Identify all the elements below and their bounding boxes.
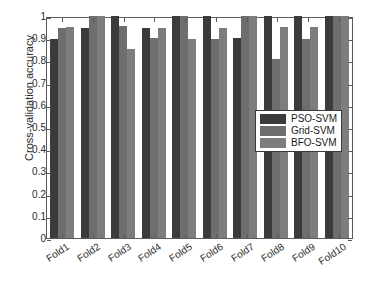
y-tick-mark: [348, 40, 352, 41]
bar-grid-svm-fold3: [119, 26, 127, 238]
y-tick-mark: [47, 18, 51, 19]
x-tick-mark: [277, 234, 278, 238]
legend-swatch-icon: [260, 138, 286, 148]
legend-entry-pso-svm[interactable]: PSO-SVM: [260, 114, 337, 124]
bar-pso-svm-fold2: [81, 28, 89, 238]
y-tick-label: 0.8: [6, 56, 46, 66]
y-tick-mark: [47, 173, 51, 174]
x-tick-mark: [124, 18, 125, 22]
legend-label: BFO-SVM: [291, 138, 337, 148]
bar-group: [78, 18, 109, 238]
bar-bfo-svm-fold4: [158, 28, 166, 238]
legend-entry-bfo-svm[interactable]: BFO-SVM: [260, 138, 337, 148]
x-tick-mark: [93, 18, 94, 22]
x-tick-mark: [93, 234, 94, 238]
y-tick-label: 0: [6, 234, 46, 244]
bar-pso-svm-fold6: [203, 16, 211, 238]
x-tick-mark: [216, 234, 217, 238]
bar-group: [139, 18, 170, 238]
x-tick-mark: [185, 234, 186, 238]
y-tick-label: 1: [6, 12, 46, 22]
bar-bfo-svm-fold6: [219, 28, 227, 238]
bar-grid-svm-fold5: [180, 16, 188, 238]
bar-group: [108, 18, 139, 238]
y-tick-mark: [47, 40, 51, 41]
legend: PSO-SVMGrid-SVMBFO-SVM: [255, 110, 342, 152]
x-tick-mark: [308, 18, 309, 22]
y-tick-mark: [348, 151, 352, 152]
y-tick-label: 0.4: [6, 145, 46, 155]
legend-swatch-icon: [260, 114, 286, 124]
bar-pso-svm-fold7: [233, 38, 241, 238]
y-tick-mark: [348, 129, 352, 130]
x-tick-mark: [339, 234, 340, 238]
bar-pso-svm-fold1: [50, 39, 58, 238]
x-tick-mark: [216, 18, 217, 22]
y-tick-mark: [348, 18, 352, 19]
x-tick-mark: [247, 234, 248, 238]
x-tick-mark: [124, 234, 125, 238]
legend-swatch-icon: [260, 126, 286, 136]
bar-grid-svm-fold1: [58, 28, 66, 238]
legend-label: Grid-SVM: [291, 126, 335, 136]
y-tick-label: 0.6: [6, 101, 46, 111]
legend-entry-grid-svm[interactable]: Grid-SVM: [260, 126, 337, 136]
x-axis-tick-labels: Fold1Fold2Fold3Fold4Fold5Fold6Fold7Fold8…: [46, 241, 353, 301]
bar-bfo-svm-fold3: [127, 49, 135, 238]
y-tick-mark: [348, 196, 352, 197]
y-tick-label: 0.2: [6, 190, 46, 200]
y-tick-mark: [47, 129, 51, 130]
x-tick-mark: [308, 234, 309, 238]
y-tick-mark: [348, 85, 352, 86]
y-tick-mark: [47, 218, 51, 219]
y-tick-label: 0.5: [6, 123, 46, 133]
x-tick-mark: [185, 18, 186, 22]
bar-chart-figure: Cross-validation accuracy 10.90.80.70.60…: [0, 0, 371, 305]
bar-grid-svm-fold2: [89, 16, 97, 238]
y-tick-mark: [47, 107, 51, 108]
y-tick-label: 0.7: [6, 79, 46, 89]
bar-bfo-svm-fold1: [66, 27, 74, 238]
x-tick-mark: [62, 18, 63, 22]
bar-bfo-svm-fold2: [97, 16, 105, 238]
bar-group: [200, 18, 231, 238]
y-tick-mark: [348, 107, 352, 108]
x-tick-mark: [154, 18, 155, 22]
y-tick-label: 0.9: [6, 34, 46, 44]
y-tick-label: 0.3: [6, 167, 46, 177]
bar-grid-svm-fold7: [241, 16, 249, 238]
bar-pso-svm-fold3: [111, 16, 119, 238]
y-tick-mark: [47, 151, 51, 152]
bar-grid-svm-fold6: [211, 39, 219, 238]
x-tick-mark: [62, 234, 63, 238]
bar-pso-svm-fold4: [142, 28, 150, 238]
y-tick-mark: [348, 62, 352, 63]
legend-label: PSO-SVM: [291, 114, 337, 124]
y-tick-mark: [348, 173, 352, 174]
y-tick-mark: [47, 196, 51, 197]
x-tick-mark: [154, 234, 155, 238]
y-tick-label: 0.1: [6, 212, 46, 222]
bar-group: [47, 18, 78, 238]
bar-group: [169, 18, 200, 238]
y-tick-mark: [47, 85, 51, 86]
bar-bfo-svm-fold5: [188, 39, 196, 238]
y-tick-mark: [348, 218, 352, 219]
bar-pso-svm-fold5: [172, 16, 180, 238]
x-tick-mark: [247, 18, 248, 22]
x-tick-mark: [339, 18, 340, 22]
x-tick-mark: [277, 18, 278, 22]
bar-grid-svm-fold4: [150, 38, 158, 238]
y-tick-mark: [47, 62, 51, 63]
